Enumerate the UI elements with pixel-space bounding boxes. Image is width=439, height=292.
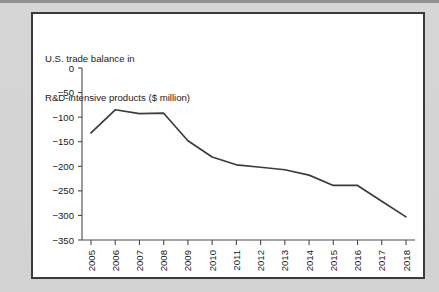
y-tick-label: −250: [52, 185, 74, 196]
x-tick-group: 2005200620072008200920102011201220132014…: [86, 240, 412, 271]
x-tick-label: 2011: [231, 250, 242, 271]
x-tick-label: 2015: [328, 250, 339, 271]
x-tick-label: 2014: [304, 249, 315, 271]
figure-panel: U.S. trade balance in R&D-intensive prod…: [31, 12, 425, 279]
y-tick-label: −100: [52, 112, 74, 123]
x-tick-label: 2006: [110, 250, 121, 271]
line-chart-plot: 0−50−100−150−200−250−300−350 20052006200…: [33, 14, 423, 277]
y-tick-label: −300: [52, 210, 74, 221]
y-tick-group: 0−50−100−150−200−250−300−350: [52, 63, 82, 246]
y-tick-label: −350: [52, 235, 74, 246]
x-tick-label: 2013: [279, 250, 290, 271]
y-tick-label: −50: [58, 87, 74, 98]
x-tick-label: 2007: [134, 250, 145, 271]
y-tick-label: −150: [52, 136, 74, 147]
x-tick-label: 2010: [207, 250, 218, 271]
x-tick-label: 2018: [401, 250, 412, 271]
x-tick-label: 2016: [352, 250, 363, 271]
x-tick-label: 2005: [86, 250, 97, 271]
x-tick-label: 2008: [158, 250, 169, 271]
y-tick-label: −200: [52, 161, 74, 172]
x-tick-label: 2012: [255, 250, 266, 271]
x-tick-label: 2009: [182, 250, 193, 271]
data-series-line: [91, 110, 406, 217]
x-tick-label: 2017: [376, 250, 387, 271]
y-tick-label: 0: [69, 63, 74, 74]
